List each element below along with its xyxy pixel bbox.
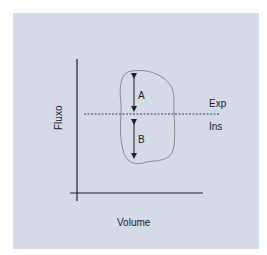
arrow-a-label: A: [138, 90, 145, 101]
arrow-b-label: B: [138, 134, 145, 145]
flow-volume-diagram: A B Exp Ins Volume Fluxo: [0, 0, 267, 255]
exp-label: Exp: [209, 98, 227, 109]
ins-label: Ins: [209, 121, 222, 132]
flow-volume-loop: [120, 71, 175, 164]
y-axis-label: Fluxo: [53, 105, 64, 130]
x-axis-label: Volume: [117, 217, 151, 228]
